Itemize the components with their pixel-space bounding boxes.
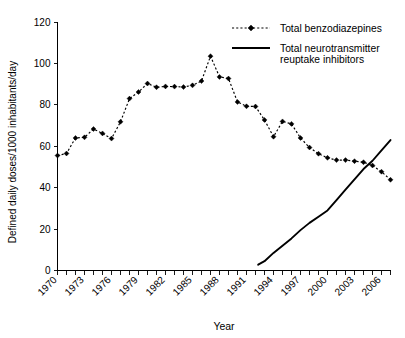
y-tick-label: 60 (39, 141, 51, 152)
y-tick-label: 40 (39, 182, 51, 193)
legend-label-reuptake-inhibitors-line2: reuptake inhibitors (280, 54, 364, 65)
chart-container: 020406080100120 197019731976197919821985… (0, 0, 405, 338)
line-chart: 020406080100120 197019731976197919821985… (0, 0, 405, 338)
y-tick-label: 80 (39, 99, 51, 110)
x-axis-title: Year (213, 320, 235, 332)
y-tick-label: 100 (34, 58, 51, 69)
legend-label-reuptake-inhibitors: Total neurotransmitter (280, 43, 380, 54)
legend-label-benzodiazepines: Total benzodiazepines (280, 23, 382, 34)
y-tick-label: 120 (34, 17, 51, 28)
y-tick-label: 20 (39, 224, 51, 235)
y-axis-title: Defined daily doses/1000 inhabitants/day (7, 61, 18, 243)
